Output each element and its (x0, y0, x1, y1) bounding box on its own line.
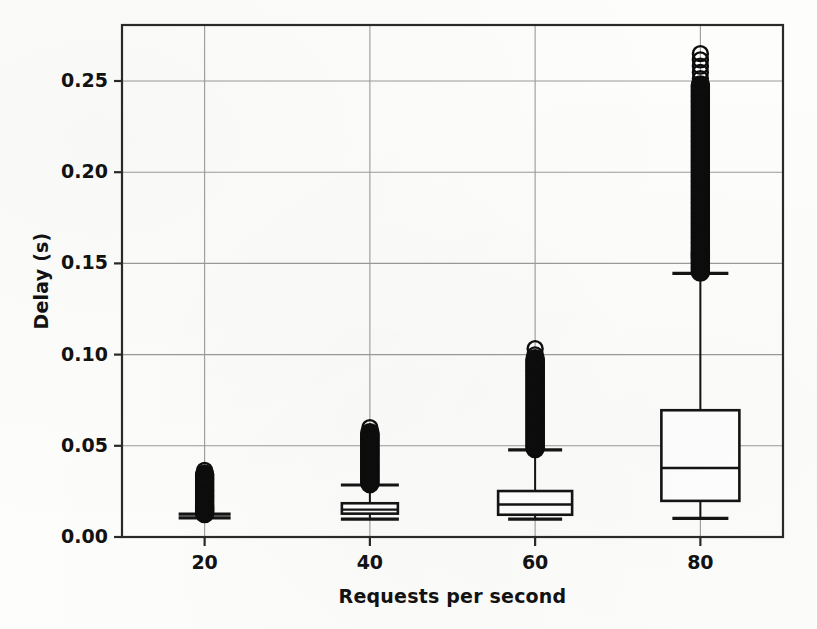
plot-canvas (0, 0, 817, 629)
y-tick-label: 0.10 (61, 343, 108, 365)
box (661, 410, 739, 501)
boxplot-figure: Delay (s) Requests per second 0.000.050.… (0, 0, 817, 629)
outlier-cluster (197, 463, 212, 521)
y-tick-label: 0.05 (61, 434, 108, 456)
y-tick-label: 0.20 (61, 160, 108, 182)
y-tick-label: 0.00 (61, 525, 108, 547)
x-tick-label: 20 (165, 551, 245, 573)
y-tick-label: 0.15 (61, 251, 108, 273)
boxplot-group-60[interactable] (498, 341, 572, 519)
y-axis-label: Delay (s) (30, 233, 52, 330)
outlier-cluster (693, 46, 708, 280)
y-tick-label: 0.25 (61, 69, 108, 91)
outlier-cluster (528, 341, 543, 456)
boxplot-group-40[interactable] (341, 420, 399, 519)
x-axis-label: Requests per second (339, 585, 567, 607)
x-tick-label: 60 (495, 551, 575, 573)
outlier-cluster (362, 420, 377, 491)
x-tick-label: 80 (660, 551, 740, 573)
x-tick-label: 40 (330, 551, 410, 573)
boxplot-group-80[interactable] (661, 46, 739, 518)
boxplot-group-20[interactable] (179, 463, 231, 521)
box (498, 491, 572, 515)
